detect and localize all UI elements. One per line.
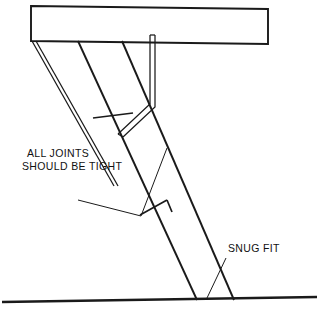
leader-snug-fit <box>207 258 226 298</box>
technical-diagram: ALL JOINTS SHOULD BE TIGHT SNUG FIT <box>0 0 319 309</box>
ground-line <box>2 297 317 302</box>
diagram-canvas: ALL JOINTS SHOULD BE TIGHT SNUG FIT <box>0 0 319 309</box>
rung-lower-right <box>167 200 172 212</box>
leader-all-joints <box>78 200 141 216</box>
callout-all-joints-line2: SHOULD BE TIGHT <box>22 160 122 172</box>
callout-all-joints-line1: ALL JOINTS <box>27 147 89 159</box>
front-leg-right-edge <box>122 41 234 300</box>
vertical-hook-rod-left <box>118 35 150 134</box>
callout-snug-fit: SNUG FIT <box>228 242 280 254</box>
